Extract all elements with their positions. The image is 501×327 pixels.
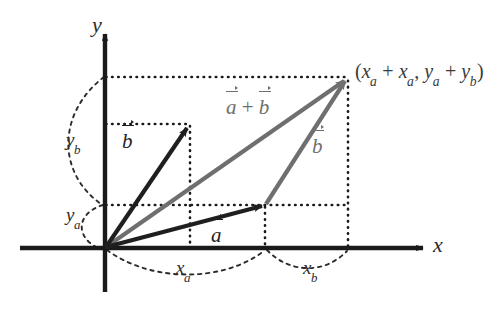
vector-a-label: a [211,225,222,246]
paren-open: ( [355,60,362,82]
comma-separator: , [414,60,424,82]
component-xa-sub: a [184,270,190,285]
vector-a-glyph: a [211,225,222,246]
plus-sign-1: + [377,60,398,82]
term-yb-base: y [461,60,470,82]
vector-sum-label: a + b [226,97,269,118]
paren-close: ) [477,60,484,82]
component-xb-label: xb [303,258,318,282]
figure-canvas: y x (xa + xa, ya + yb) a + b b b a yb ya… [0,0,501,327]
component-ya-sub: a [74,217,80,232]
vector-b-translated-arrow [266,81,345,204]
y-axis-label: y [92,14,102,36]
vector-b-glyph: b [122,131,133,152]
vector-sum-arrow [106,81,344,247]
component-xa-label: xa [176,258,191,282]
term-xa-1-sub: a [370,74,377,89]
term-yb-sub: b [470,74,477,89]
vector-b-translated-label: b [312,136,323,157]
component-xb-sub: b [311,270,317,285]
sum-operator: + [237,95,259,119]
component-yb-sub: b [74,142,80,157]
term-xa-2-sub: a [407,74,414,89]
sum-point-coordinate-label: (xa + xa, ya + yb) [355,61,484,86]
component-ya-label: ya [66,205,81,229]
term-ya-sub: a [433,74,440,89]
vector-b-glyph: b [312,136,323,157]
arc-ya [82,205,103,249]
term-ya-base: y [424,60,433,82]
vector-b-label: b [122,131,133,152]
plus-sign-2: + [440,60,461,82]
vector-b-glyph: b [259,97,270,118]
component-yb-label: yb [66,130,81,154]
x-axis-label: x [433,234,443,256]
vector-a-glyph: a [226,97,237,118]
vector-addition-diagram [0,0,501,327]
